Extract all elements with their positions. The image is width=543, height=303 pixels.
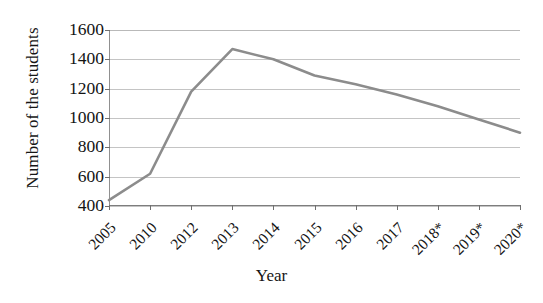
line-chart-figure: Number of the students 40060080010001200… [0,0,543,303]
x-axis-title: Year [0,266,543,286]
x-axis-tick-labels: 200520102012201320142015201620172018*201… [0,0,543,303]
x-axis-tick-label: 2005 [20,219,119,303]
